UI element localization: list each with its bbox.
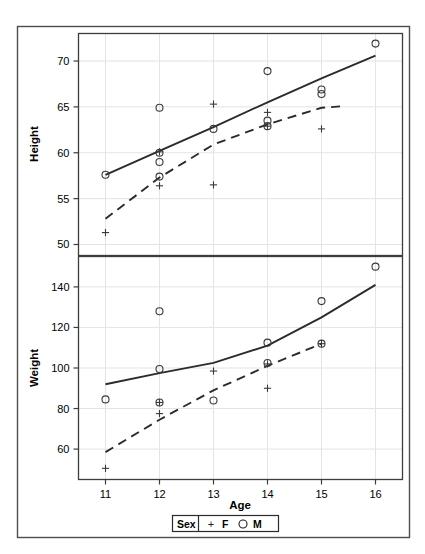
y-tick-label: 140 xyxy=(51,281,69,293)
figure-background xyxy=(0,0,425,554)
y-tick-label: 120 xyxy=(51,321,69,333)
x-tick-label: 16 xyxy=(369,488,381,500)
y-tick-label: 55 xyxy=(57,193,69,205)
legend[interactable]: Sex + F M xyxy=(173,516,279,532)
x-tick-label: 15 xyxy=(315,488,327,500)
x-tick-label: 12 xyxy=(153,488,165,500)
x-tick-label: 11 xyxy=(100,488,111,500)
chart-figure: 5055606570 Height 6080100120140 Weight 1… xyxy=(0,0,425,554)
y-tick-label: 50 xyxy=(57,238,69,250)
y-tick-label: 65 xyxy=(57,101,69,113)
x-tick-label: 14 xyxy=(261,488,273,500)
legend-label-f: F xyxy=(222,518,229,530)
x-tick-label: 13 xyxy=(207,488,219,500)
y-tick-label: 80 xyxy=(57,403,69,415)
legend-label-m: M xyxy=(253,518,262,530)
x-axis-title: Age xyxy=(229,499,251,511)
y-tick-label: 60 xyxy=(57,443,69,455)
y-tick-label: 60 xyxy=(57,147,69,159)
y-axis-title-weight: Weight xyxy=(28,349,40,387)
legend-title: Sex xyxy=(177,518,196,530)
y-axis-title-height: Height xyxy=(28,126,40,162)
y-tick-label: 100 xyxy=(51,362,69,374)
legend-symbol-f: + xyxy=(208,518,214,530)
y-tick-label: 70 xyxy=(57,55,69,67)
